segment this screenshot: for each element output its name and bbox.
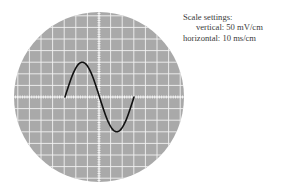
vertical-scale-label: vertical:: [196, 22, 224, 32]
scale-settings-label: Scale settings: vertical: 50 mV/cm horiz…: [183, 12, 263, 43]
horizontal-scale: horizontal: 10 ms/cm: [183, 33, 263, 43]
vertical-scale-value: 50 mV/cm: [226, 22, 263, 32]
horizontal-scale-value: 10 ms/cm: [222, 33, 256, 43]
scale-settings-title: Scale settings:: [183, 12, 263, 22]
horizontal-scale-label: horizontal:: [183, 33, 220, 43]
vertical-scale: vertical: 50 mV/cm: [183, 22, 263, 32]
